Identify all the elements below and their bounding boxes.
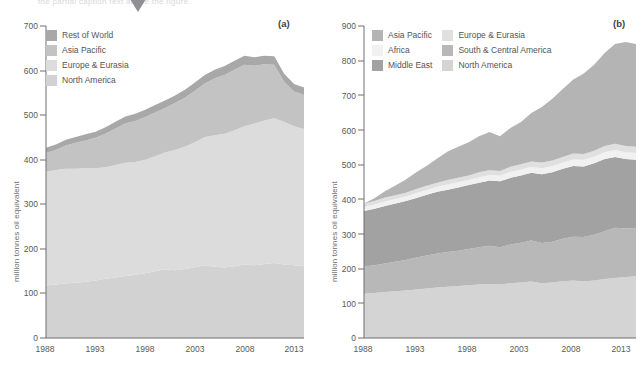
panel-b-legend-label: North America [458,60,512,71]
panel-a-legend-item[interactable]: Europe & Eurasia [46,59,129,72]
panel-a-legend-item[interactable]: Rest of World [46,29,129,42]
panel-b-legend-label: Africa [388,45,410,56]
panel-b-legend-label: Middle East [388,60,432,71]
panel-a-legend-label: North America [62,75,116,86]
panel-b-legend-label: Asia Pacific [388,30,432,41]
panel-b-legend-label: South & Central America [458,45,551,56]
panel-b-legend-swatch-icon [442,45,453,56]
panel-b-legend-item[interactable]: Europe & Eurasia [442,29,551,42]
panel-b-legend: Asia PacificEurope & EurasiaAfricaSouth … [372,29,552,72]
panel-b-legend-item[interactable]: Middle East [372,59,432,72]
panel-a-legend-swatch-icon [46,60,57,71]
panel-a-legend-label: Europe & Eurasia [62,60,129,71]
panel-b-legend-swatch-icon [372,30,383,41]
panel-b-legend-item[interactable]: Africa [372,44,432,57]
panel-a-legend: Rest of WorldAsia PacificEurope & Eurasi… [46,29,129,87]
panel-b-legend-item[interactable]: Asia Pacific [372,29,432,42]
panel-b-legend-label: Europe & Eurasia [458,30,525,41]
panel-a-legend-swatch-icon [46,45,57,56]
panel-a-legend-label: Rest of World [62,30,113,41]
chart-panel-b: (b) million tonnes oil equivalent 0 100 … [316,0,642,371]
panel-a-legend-item[interactable]: North America [46,74,129,87]
panel-b-legend-swatch-icon [442,60,453,71]
panel-b-legend-swatch-icon [372,45,383,56]
panel-b-legend-item[interactable]: North America [442,59,551,72]
panel-a-legend-swatch-icon [46,75,57,86]
panel-b-legend-swatch-icon [442,30,453,41]
panel-b-legend-item[interactable]: South & Central America [442,44,551,57]
panel-a-legend-item[interactable]: Asia Pacific [46,44,129,57]
chart-panel-a: (a) million tonnes oil equivalent 0 100 … [0,0,320,371]
figure-root: the partial caption text above the figur… [0,0,642,371]
panel-a-legend-label: Asia Pacific [62,45,106,56]
panel-b-legend-swatch-icon [372,60,383,71]
panel-a-legend-swatch-icon [46,30,57,41]
